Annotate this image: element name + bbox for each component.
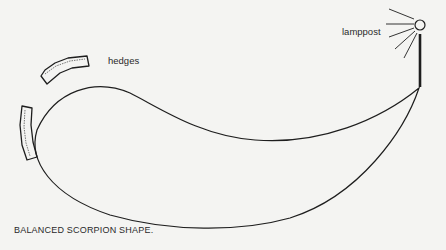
scorpion-shape-outline (35, 87, 419, 228)
hedge-top-icon (41, 56, 89, 84)
figure-caption: BALANCED SCORPION SHAPE. (14, 225, 153, 235)
lamppost-label: lamppost (342, 26, 381, 37)
hedge-left-icon (20, 106, 37, 160)
hedges-label: hedges (108, 55, 139, 66)
diagram-canvas (0, 0, 446, 250)
lamppost-icon (386, 9, 425, 87)
